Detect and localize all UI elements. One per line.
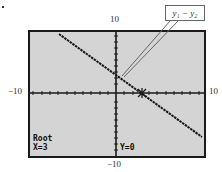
y-max-label: 10 <box>110 14 119 24</box>
x-readout: X=3 <box>33 144 47 152</box>
x-max-label: 10 <box>209 86 218 96</box>
calculator-screen: Root X=3 Y=0 <box>28 30 206 158</box>
y-min-label: −10 <box>107 159 121 169</box>
callout-label: y₁ − y₂ <box>165 5 205 21</box>
figure-marker-dot <box>2 6 4 8</box>
y-readout: Y=0 <box>120 144 134 152</box>
function-line-y1-minus-y2 <box>59 34 202 137</box>
root-mode-label: Root <box>33 135 52 143</box>
x-min-label: −10 <box>8 86 22 96</box>
graph-plot <box>30 32 204 156</box>
